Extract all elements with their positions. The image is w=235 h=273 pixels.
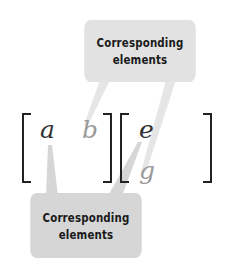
callout-top-line2: elements [113, 51, 168, 68]
matrix-entry-a: a [40, 117, 55, 142]
matrix-entry-b: b [82, 117, 98, 142]
matrix-entry-g: g [139, 158, 155, 183]
right-matrix-close-bracket [203, 113, 212, 183]
matrix-correspondence-diagram: Corresponding elements Corresponding ele… [0, 0, 235, 273]
callout-bottom-line1: Corresponding [42, 209, 129, 226]
callout-top-line1: Corresponding [96, 34, 183, 51]
left-matrix-open-bracket [22, 113, 31, 183]
callout-bottom-line2: elements [59, 226, 114, 243]
matrix-entry-e: e [139, 117, 154, 142]
left-matrix-close-bracket [103, 113, 112, 183]
leader-bottom-to-a [46, 145, 58, 196]
right-matrix-open-bracket [120, 113, 129, 183]
callout-corresponding-elements-top: Corresponding elements [84, 20, 196, 82]
callout-corresponding-elements-bottom: Corresponding elements [30, 193, 142, 258]
